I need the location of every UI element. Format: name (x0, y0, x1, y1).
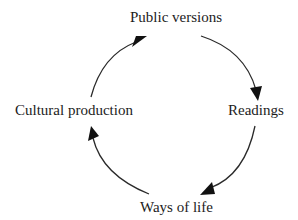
arrowhead-icon (132, 36, 147, 47)
node-public-versions: Public versions (130, 9, 222, 26)
arrow-ways-of-life-to-cultural-production (88, 126, 149, 194)
circuit-diagram: Public versions Readings Ways of life Cu… (0, 0, 298, 220)
arrow-cultural-production-to-public-versions (91, 36, 147, 97)
arrowhead-icon (200, 182, 215, 195)
arrow-public-versions-to-readings (201, 36, 262, 101)
node-readings: Readings (228, 102, 284, 119)
arrowhead-icon (250, 86, 262, 101)
node-ways-of-life: Ways of life (140, 199, 213, 216)
arrow-readings-to-ways-of-life (200, 126, 255, 195)
node-cultural-production: Cultural production (15, 102, 133, 119)
